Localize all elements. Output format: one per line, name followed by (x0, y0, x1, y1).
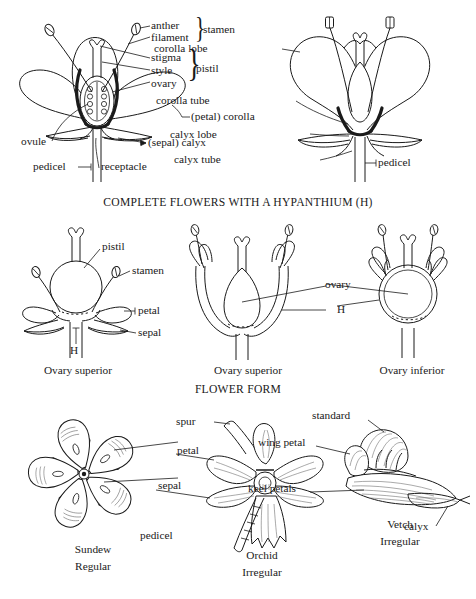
label-pedicel-2: pedicel (378, 156, 411, 169)
label-petal-corolla: (petal) corolla (191, 110, 255, 123)
caption-hypanthium-c: Ovary inferior (350, 363, 474, 378)
figure-sundew: Sundew Regular (18, 410, 188, 590)
label-stamen-group: stamen (203, 23, 235, 36)
figure-hypanthium-ovary-superior-b: Ovary superior (178, 224, 318, 374)
label-keel-petals: keel petals (248, 482, 296, 495)
figure-hypanthium-ovary-superior-a: pistil stamen petal sepal H Ovary superi… (12, 224, 172, 374)
vetch-drawing (320, 410, 476, 590)
caption-orchid-name: Orchid (202, 548, 322, 563)
label-spur: spur (176, 415, 195, 428)
label-pedicel-orchid: pedicel (140, 529, 173, 542)
label-receptacle: receptacle (101, 160, 147, 173)
caption-sundew-form: Regular (38, 559, 148, 574)
caption-hypanthium-a: Ovary superior (20, 363, 136, 378)
label-ovule: ovule (21, 135, 46, 148)
hypanthium-a-drawing (12, 224, 172, 374)
hypanthium-c-drawing (352, 224, 476, 374)
label-h-a: H (70, 344, 78, 357)
label-pistil-group: pistil (196, 62, 219, 75)
label-stamen-a: stamen (132, 264, 164, 277)
label-wing-petal: wing petal (258, 436, 305, 449)
label-calyx-lobe: calyx lobe (170, 128, 217, 141)
label-ovary: ovary (151, 77, 177, 90)
heading-flower-form: FLOWER FORM (0, 383, 476, 396)
heading-hypanthium: COMPLETE FLOWERS WITH A HYPANTHIUM (H) (0, 196, 476, 209)
sympetalous-flower-drawing (248, 0, 476, 190)
label-corolla-lobe: corolla lobe (154, 42, 208, 55)
figure-sympetalous-flower: corolla lobe corolla tube calyx lobe cal… (248, 0, 476, 190)
caption-hypanthium-b: Ovary superior (178, 363, 318, 378)
label-pedicel: pedicel (33, 160, 66, 173)
label-petal-a: petal (138, 304, 160, 317)
figure-vetch: standard wing petal keel petals calyx Ve… (320, 410, 476, 590)
figure-hypanthium-ovary-inferior: Ovary inferior (352, 224, 476, 374)
label-sepal-a: sepal (138, 326, 161, 339)
hypanthium-b-drawing (178, 224, 318, 374)
label-pistil-a: pistil (102, 240, 125, 253)
label-style: style (151, 64, 172, 77)
label-corolla-tube: corolla tube (156, 94, 210, 107)
caption-vetch-form: Irregular (350, 534, 450, 549)
caption-orchid-form: Irregular (202, 565, 322, 580)
caption-sundew-name: Sundew (38, 542, 148, 557)
caption-vetch-name: Vetch (350, 517, 450, 532)
diagram-page: anther filament stigma style ovary (peta… (0, 0, 476, 599)
label-calyx-tube: calyx tube (174, 153, 221, 166)
label-standard: standard (312, 409, 350, 422)
label-sepal-shared: sepal (158, 479, 181, 492)
